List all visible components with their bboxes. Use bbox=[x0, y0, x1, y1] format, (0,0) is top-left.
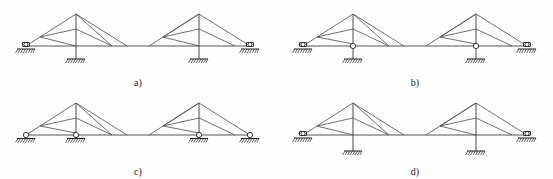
panel-c: c) bbox=[0, 89, 276, 178]
support-fixed-inner-right-a bbox=[189, 46, 209, 63]
panel-a: a) bbox=[0, 0, 276, 89]
support-roller-outer-right-c bbox=[240, 132, 260, 142]
support-fixed-inner-left-a bbox=[66, 46, 86, 63]
support-roller-outer-left-d bbox=[293, 131, 313, 142]
support-roller-inner-left-c bbox=[66, 132, 86, 142]
truss-right-c bbox=[127, 103, 250, 135]
support-roller-outer-right-a bbox=[240, 42, 260, 53]
support-fixed-column-left-d bbox=[343, 151, 363, 155]
support-roller-outer-right-b bbox=[517, 42, 537, 53]
truss-right-b bbox=[404, 14, 527, 46]
panel-a-label: a) bbox=[0, 77, 276, 88]
truss-left-a bbox=[26, 14, 127, 46]
panel-c-label: c) bbox=[0, 166, 276, 177]
truss-support-schemes-figure: a) bbox=[0, 0, 553, 179]
truss-right-a bbox=[127, 14, 250, 46]
support-roller-outer-left-a bbox=[16, 42, 36, 53]
support-roller-outer-left-c bbox=[16, 132, 36, 142]
truss-left-c bbox=[26, 103, 127, 135]
support-roller-inner-right-c bbox=[189, 132, 209, 142]
support-fixed-column-right-d bbox=[466, 151, 486, 155]
panel-b-label: b) bbox=[277, 77, 553, 88]
support-roller-outer-right-d bbox=[517, 131, 537, 142]
truss-right-d bbox=[404, 103, 527, 151]
panel-b: b) bbox=[277, 0, 553, 89]
truss-left-b bbox=[303, 14, 404, 46]
truss-left-d bbox=[303, 103, 404, 151]
panel-d: d) bbox=[277, 89, 553, 178]
support-roller-outer-left-b bbox=[293, 42, 313, 53]
panel-d-label: d) bbox=[277, 166, 553, 177]
